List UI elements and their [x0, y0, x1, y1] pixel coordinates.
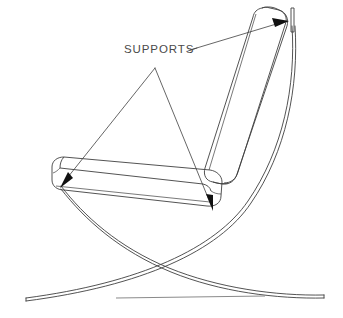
chair-frame-group [26, 26, 324, 301]
front-curved-rail [61, 186, 324, 298]
seat-cushion [52, 157, 222, 206]
rear-curved-rail [26, 26, 296, 301]
ground-reference-line [116, 296, 265, 298]
drawing-canvas: SUPPORTS [0, 0, 343, 318]
arrowhead-seat-rear [206, 194, 213, 211]
supports-label: SUPPORTS [124, 43, 194, 55]
chair-line-drawing: SUPPORTS [0, 0, 343, 318]
arrowhead-seat-front [60, 172, 73, 188]
